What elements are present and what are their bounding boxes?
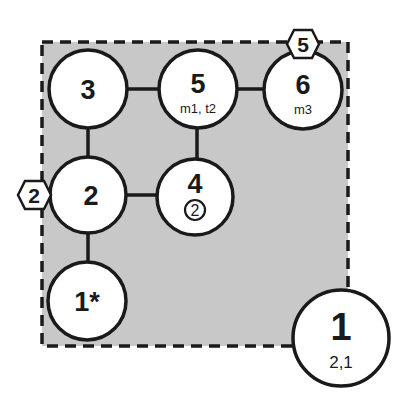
diagram-canvas: 3 5 m1, t2 6 m3 5 2 2 4 2 1* 1 bbox=[0, 0, 414, 406]
node-1-star: 1* bbox=[48, 262, 126, 340]
hex-badge-node-6: 5 bbox=[287, 30, 319, 58]
node-6: 6 m3 bbox=[264, 51, 342, 129]
hex-badge-node-2-label: 2 bbox=[28, 184, 40, 207]
node-1: 1 2,1 bbox=[293, 290, 389, 386]
hex-badge-node-2: 2 bbox=[18, 181, 51, 209]
node-1-sublabel: 2,1 bbox=[329, 353, 353, 372]
node-1-label: 1 bbox=[330, 306, 351, 348]
node-5-sublabel: m1, t2 bbox=[180, 101, 216, 116]
node-4-circled-value: 2 bbox=[191, 202, 200, 219]
node-5-label: 5 bbox=[190, 69, 205, 99]
node-4: 4 2 bbox=[157, 159, 233, 235]
node-2-label: 2 bbox=[83, 181, 98, 211]
hex-badge-node-6-label: 5 bbox=[297, 33, 309, 56]
node-1-star-label: 1* bbox=[74, 287, 100, 317]
node-6-sublabel: m3 bbox=[294, 102, 312, 117]
node-4-label: 4 bbox=[187, 169, 202, 199]
node-5: 5 m1, t2 bbox=[159, 50, 237, 128]
node-3: 3 bbox=[49, 50, 127, 128]
node-6-label: 6 bbox=[295, 70, 310, 100]
node-2: 2 bbox=[50, 157, 126, 233]
node-3-label: 3 bbox=[80, 75, 95, 105]
